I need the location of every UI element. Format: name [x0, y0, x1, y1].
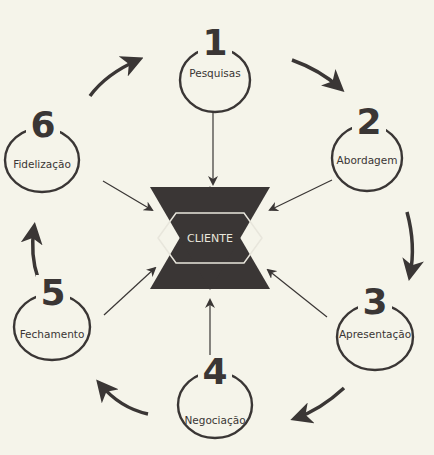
step-label: Apresentação	[339, 328, 411, 340]
spoke-arrow-5	[104, 268, 155, 315]
step-label: Fidelização	[13, 158, 71, 170]
spoke-arrow-2	[270, 180, 332, 210]
step-label: Fechamento	[20, 328, 85, 340]
step-node-2: 2 Abordagem	[332, 101, 402, 191]
step-number: 5	[40, 272, 65, 313]
step-node-5: 5 Fechamento	[14, 272, 90, 360]
sales-cycle-diagram: CLIENTE 1 Pesquisas 2 Abordagem 3 Aprese…	[0, 0, 434, 455]
cycle-arrow-1-to-2	[292, 60, 340, 88]
cycle-arrow-3-to-4	[296, 388, 344, 418]
step-node-3: 3 Apresentação	[337, 281, 413, 370]
diagram-canvas: CLIENTE 1 Pesquisas 2 Abordagem 3 Aprese…	[0, 0, 434, 455]
step-node-1: 1 Pesquisas	[180, 22, 250, 112]
center-label: CLIENTE	[187, 232, 233, 245]
step-number: 3	[362, 281, 387, 322]
cycle-arrow-2-to-3	[407, 212, 412, 275]
step-label: Pesquisas	[189, 67, 241, 79]
cycle-arrow-5-to-6	[33, 228, 38, 278]
step-label: Negociação	[184, 414, 245, 426]
spoke-arrow-3	[268, 270, 327, 317]
step-node-4: 4 Negociação	[178, 351, 252, 438]
spoke-arrow-6	[103, 181, 152, 210]
cycle-arrow-4-to-5	[100, 384, 148, 414]
step-node-6: 6 Fidelização	[5, 104, 79, 192]
step-label: Abordagem	[337, 154, 398, 166]
step-number: 4	[202, 351, 227, 392]
center-star: CLIENTE	[150, 186, 270, 290]
step-number: 2	[356, 101, 381, 142]
step-number: 1	[202, 22, 227, 63]
step-number: 6	[30, 104, 55, 145]
cycle-arrow-6-to-1	[90, 60, 138, 96]
